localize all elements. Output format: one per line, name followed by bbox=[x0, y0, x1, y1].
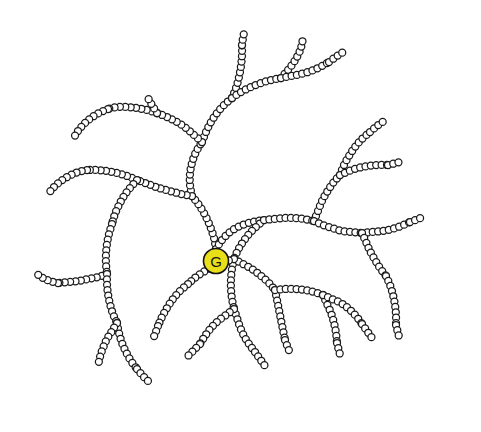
chain-bead bbox=[379, 118, 386, 125]
chain-bead bbox=[95, 358, 102, 365]
polymer-diagram-canvas: Hyperbranched polymer schematic Schemati… bbox=[0, 0, 481, 432]
chain-bead bbox=[336, 350, 343, 357]
chain-bead bbox=[368, 334, 375, 341]
chain-bead bbox=[240, 31, 247, 38]
chain-bead bbox=[339, 49, 346, 56]
chain-bead bbox=[185, 352, 192, 359]
chain-bead bbox=[144, 377, 151, 384]
chain-bead bbox=[145, 96, 152, 103]
chain-bead bbox=[151, 333, 158, 340]
core-label: G bbox=[210, 253, 222, 270]
chain-bead bbox=[299, 38, 306, 45]
chain-bead bbox=[47, 188, 54, 195]
polymer-figure: Hyperbranched polymer schematic Schemati… bbox=[0, 0, 481, 432]
chain-bead bbox=[35, 271, 42, 278]
chain-bead bbox=[261, 362, 268, 369]
chain-bead bbox=[285, 347, 292, 354]
chain-bead bbox=[395, 332, 402, 339]
chain-bead bbox=[395, 159, 402, 166]
polymer-branch bbox=[239, 31, 248, 49]
core-group[interactable]: G bbox=[204, 249, 229, 274]
chain-bead bbox=[417, 215, 424, 222]
chain-bead bbox=[72, 132, 79, 139]
